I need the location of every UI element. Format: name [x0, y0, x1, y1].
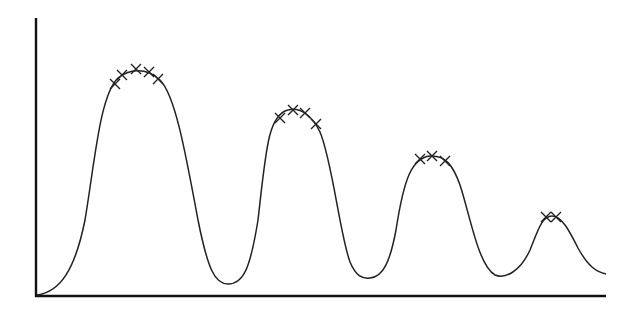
- signal-curve: [37, 71, 606, 295]
- chart-container: [0, 0, 639, 310]
- x-marker-icon: [117, 70, 127, 80]
- x-marker-icon: [300, 108, 310, 118]
- x-marker-icon: [153, 74, 163, 84]
- line-chart: [0, 0, 639, 310]
- x-marker-icon: [131, 64, 141, 74]
- x-marker-icon: [440, 156, 450, 166]
- x-marker-icon: [551, 212, 561, 222]
- x-marker-icon: [311, 119, 321, 129]
- x-marker-icon: [415, 154, 425, 164]
